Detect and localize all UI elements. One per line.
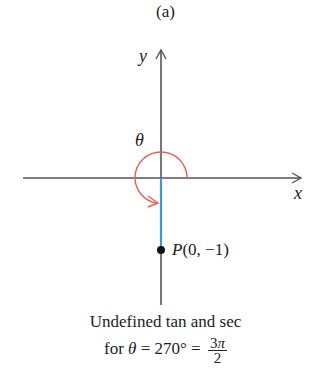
point-p	[157, 246, 165, 254]
caption-prefix: for	[104, 339, 128, 358]
fraction-3pi-over-2: 3π2	[208, 336, 227, 365]
point-label: P(0, −1)	[172, 240, 229, 260]
caption-mid: = 270° =	[136, 339, 204, 358]
point-name: P	[172, 240, 182, 259]
x-axis-label: x	[294, 183, 302, 204]
numerator-pi: π	[217, 335, 225, 351]
y-axis-label: y	[139, 46, 147, 67]
caption-line-1: Undefined tan and sec	[0, 312, 331, 332]
fraction-denominator: 2	[208, 351, 227, 365]
panel-label: (a)	[0, 2, 331, 22]
figure-unit-circle-270: (a) y x θ P(0, −1) Undefined tan and sec…	[0, 0, 331, 372]
point-coords: (0, −1)	[182, 240, 228, 259]
fraction-numerator: 3π	[208, 336, 227, 351]
caption-line-2: for θ = 270° = 3π2	[0, 336, 331, 365]
angle-label: θ	[135, 130, 144, 151]
